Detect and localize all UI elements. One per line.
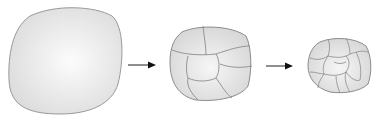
arrow-right-icon (266, 63, 293, 70)
arrow-right-icon (128, 62, 156, 69)
few-cells (170, 26, 252, 100)
diagram (0, 0, 378, 120)
many-cells (308, 38, 371, 93)
single-cell (9, 8, 122, 114)
